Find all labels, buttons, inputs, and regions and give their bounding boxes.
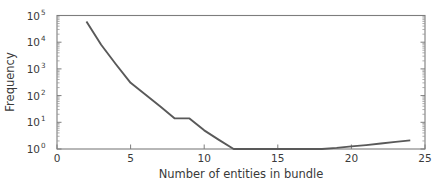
data-series-line bbox=[86, 21, 410, 149]
y-tick-label-0-exponent: 0 bbox=[41, 141, 46, 150]
y-tick-label-5-mantissa: 10 bbox=[27, 10, 40, 22]
x-tick-label-25: 25 bbox=[418, 152, 431, 164]
y-axis-minor-ticks bbox=[57, 17, 425, 141]
x-tick-label-20: 20 bbox=[345, 152, 358, 164]
y-tick-label-1-mantissa: 10 bbox=[27, 116, 40, 128]
x-tick-label-0: 0 bbox=[54, 152, 61, 164]
y-tick-label-2-mantissa: 10 bbox=[27, 90, 40, 102]
y-tick-label-5-exponent: 5 bbox=[41, 8, 46, 17]
y-tick-label-3-exponent: 3 bbox=[41, 61, 46, 70]
x-tick-label-10: 10 bbox=[198, 152, 211, 164]
y-tick-label-0-mantissa: 10 bbox=[27, 143, 40, 155]
y-tick-label-4-mantissa: 10 bbox=[27, 36, 40, 48]
y-axis-major-ticks bbox=[57, 16, 425, 150]
x-tick-labels: 0 5 10 15 20 25 bbox=[54, 152, 432, 164]
chart-figure: 10 5 10 4 10 3 10 2 10 1 10 0 0 5 10 15 … bbox=[0, 0, 446, 184]
y-tick-label-1-exponent: 1 bbox=[41, 114, 46, 123]
chart-canvas: 10 5 10 4 10 3 10 2 10 1 10 0 0 5 10 15 … bbox=[0, 0, 446, 184]
y-tick-labels: 10 5 10 4 10 3 10 2 10 1 10 0 bbox=[27, 8, 46, 156]
x-tick-label-15: 15 bbox=[271, 152, 284, 164]
y-axis-label: Frequency bbox=[3, 52, 17, 112]
y-tick-label-3-mantissa: 10 bbox=[27, 63, 40, 75]
x-axis-label: Number of entities in bundle bbox=[159, 167, 324, 181]
plot-frame bbox=[57, 16, 425, 150]
y-tick-label-2-exponent: 2 bbox=[41, 88, 46, 97]
y-tick-label-4-exponent: 4 bbox=[41, 34, 46, 43]
x-tick-label-5: 5 bbox=[127, 152, 134, 164]
